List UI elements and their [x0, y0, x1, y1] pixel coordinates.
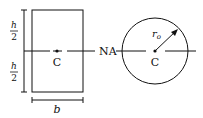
upper-half-height-label: h 2	[10, 20, 18, 42]
radius-label: ro	[152, 28, 161, 41]
svg-text:h: h	[11, 61, 17, 71]
rect-centroid-dot	[55, 49, 58, 52]
lower-half-height-label: h 2	[10, 61, 18, 83]
circle-centroid-label: C	[151, 56, 159, 69]
svg-text:h: h	[11, 20, 17, 30]
rect-centroid-label: C	[53, 56, 61, 69]
svg-text:2: 2	[11, 73, 17, 83]
svg-text:2: 2	[11, 32, 17, 42]
cross-section-diagram: h 2 h 2 b C NA ro C	[0, 0, 203, 118]
neutral-axis-label: NA	[99, 45, 118, 58]
width-label: b	[53, 103, 60, 116]
